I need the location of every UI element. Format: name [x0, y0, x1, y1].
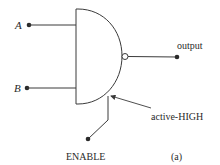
enable-label: ENABLE: [66, 151, 105, 162]
figure-caption: (a): [171, 151, 182, 163]
active-high-label: active-HIGH: [151, 111, 203, 122]
output-wire: [128, 57, 177, 58]
enable: ENABLE: [66, 96, 108, 162]
annotation-arrow: [111, 96, 151, 108]
input-b: B: [14, 82, 76, 94]
input-a-label: A: [14, 19, 22, 31]
output-label: output: [177, 40, 203, 51]
gate-body: [76, 9, 122, 104]
input-b-label: B: [14, 82, 21, 94]
nand-gate-diagram: A B output ENABLE active-HIGH (a): [0, 0, 220, 165]
enable-terminal: [86, 137, 91, 142]
inversion-bubble: [122, 54, 128, 60]
output-terminal: [175, 55, 180, 60]
output: output: [128, 40, 203, 59]
input-a: A: [14, 19, 76, 31]
active-high-annotation: active-HIGH: [111, 96, 203, 122]
